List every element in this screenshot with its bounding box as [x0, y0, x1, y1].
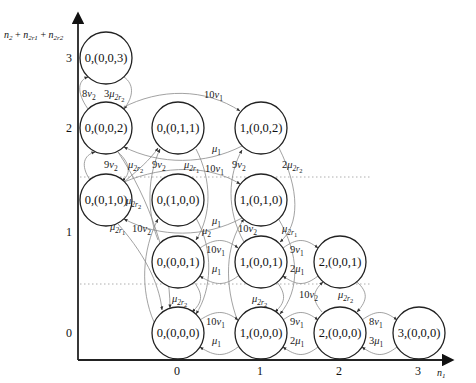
rate-label-r-mu1-top: μ1: [211, 143, 221, 157]
x-tick-label: 2: [336, 364, 342, 378]
state-node: 2,(0,0,1): [314, 236, 366, 288]
edge-mu1-low: [200, 276, 238, 284]
y-tick-label: 0: [66, 326, 72, 340]
y-axis-title: n2 + n2r1 + n2r2: [4, 29, 64, 42]
edge-9v1-bot: [283, 313, 318, 321]
state-label: 0,(0,1,0): [85, 193, 128, 207]
state-node: 2,(0,0,0): [314, 307, 366, 359]
rate-label-r-mu1-low: μ1: [211, 263, 221, 277]
state-node: 0,(0,1,1): [152, 102, 204, 154]
state-node: 0,(0,0,0): [152, 307, 204, 359]
edge-mu2r2-c: [192, 282, 201, 312]
state-label: 1,(0,0,1): [240, 255, 283, 269]
state-label: 1,(0,1,0): [240, 193, 283, 207]
edge-2mu1-low: [283, 276, 318, 284]
rate-label-r-mu2r2-d: μ2r2: [251, 293, 267, 308]
y-tick-label: 3: [66, 51, 72, 65]
state-node: 0,(0,0,3): [80, 32, 132, 84]
rate-label-r-mu2r2-e: μ2r2: [337, 289, 353, 304]
rate-label-r-mu1-bot: μ1: [211, 335, 221, 349]
rate-label-r-3mu1: 3μ1: [369, 335, 384, 349]
state-node: 0,(0,0,1): [152, 236, 204, 288]
state-label: 0,(1,0,0): [157, 193, 200, 207]
x-tick-label: 0: [174, 364, 180, 378]
x-tick-label: 3: [415, 364, 421, 378]
edge-mu2r2-e: [357, 282, 365, 312]
rate-label-r-10v1-mid: 10v1: [205, 163, 224, 177]
rate-label-r-10v2-a: 10v2: [132, 223, 151, 237]
rate-label-r-2mu1-bot: 2μ1: [290, 335, 305, 349]
x-tick-label: 1: [257, 364, 263, 378]
state-label: 0,(0,0,0): [157, 326, 200, 340]
state-node: 3,(0,0,0): [393, 307, 445, 359]
rate-label-r-mu1-mid: μ1: [211, 215, 221, 229]
rate-label-r-mu2r2-c: μ2r2: [171, 293, 187, 308]
state-node: 0,(1,0,0): [152, 174, 204, 226]
edge-9v1-low: [283, 241, 318, 249]
state-label: 0,(0,1,1): [157, 121, 200, 135]
edge-8v1: [362, 313, 397, 321]
state-label: 0,(0,0,1): [157, 255, 200, 269]
rate-label-r-3mu2r2: 3μ2r2: [104, 88, 124, 103]
state-label: 1,(0,0,0): [240, 326, 283, 340]
rate-label-r-mu2r1-c: μ2r1: [281, 223, 297, 238]
state-label: 2,(0,0,1): [319, 255, 362, 269]
rate-label-r-10v1-bot: 10v1: [206, 316, 225, 330]
y-tick-label: 1: [66, 225, 72, 239]
edge-mu2r2-d: [275, 282, 284, 312]
rate-label-r-2mu2r2: 2μ2r2: [282, 159, 302, 174]
rate-label-r-8v2: 8v2: [82, 88, 96, 102]
state-node: 1,(0,1,0): [235, 174, 287, 226]
rate-label-r-9v2-a: 9v2: [104, 159, 118, 173]
rate-label-r-9v1-bot: 9v1: [290, 316, 304, 330]
x-axis-title: n1: [437, 367, 446, 380]
state-label: 3,(0,0,0): [398, 326, 441, 340]
state-node: 1,(0,0,0): [235, 307, 287, 359]
rate-label-r-10v2-c: 10v2: [299, 289, 318, 303]
state-label: 0,(0,0,2): [85, 121, 128, 135]
rate-label-r-10v1-top: 10v1: [204, 89, 223, 103]
rate-label-r-10v1-low: 10v1: [206, 244, 225, 258]
state-node: 1,(0,0,2): [235, 102, 287, 154]
state-node: 0,(0,0,2): [80, 102, 132, 154]
rate-label-r-9v2-b: 9v2: [152, 159, 166, 173]
rate-label-r-mu2: μ2: [201, 225, 211, 239]
state-label: 1,(0,0,2): [240, 121, 283, 135]
y-tick-label: 2: [66, 121, 72, 135]
rate-label-r-mu2r2-a: μ2r2: [127, 159, 143, 174]
rate-label-r-9v1-low: 9v1: [290, 244, 304, 258]
state-label: 2,(0,0,0): [319, 326, 362, 340]
state-label: 0,(0,0,3): [85, 51, 128, 65]
rate-label-r-mu2r1-a: μ2r1: [183, 159, 199, 174]
rate-label-r-2mu1-low: 2μ1: [290, 263, 305, 277]
state-node: 0,(0,1,0): [80, 174, 132, 226]
rate-label-r-8v1: 8v1: [369, 316, 383, 330]
state-node: 1,(0,0,1): [235, 236, 287, 288]
edge-9v2-a: [84, 152, 95, 180]
state-transition-diagram: n2 + n2r1 + n2r2 n1 0 1 2 3 0 1 2 3: [0, 0, 476, 383]
